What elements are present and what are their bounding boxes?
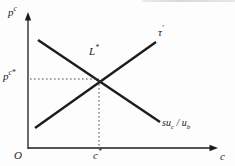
quantity-marker-label: c* bbox=[93, 150, 102, 161]
intersection-label: L* bbox=[89, 46, 99, 57]
downward-curve-slash: / bbox=[174, 117, 182, 128]
intersection-sup: * bbox=[95, 43, 99, 52]
downward-curve-part1: su bbox=[162, 117, 171, 128]
y-axis-label-sup: c bbox=[14, 4, 17, 13]
upward-curve-sup: ′ bbox=[162, 24, 164, 33]
price-marker-label: pc* bbox=[3, 71, 16, 82]
x-axis-label: c bbox=[220, 151, 225, 162]
quantity-marker-sup: * bbox=[98, 147, 102, 156]
origin-label: O bbox=[14, 150, 22, 161]
y-axis-label: pc bbox=[8, 7, 17, 18]
upward-curve-label: τ′ bbox=[158, 27, 164, 38]
supply-demand-diagram: pc pc* O c* c L* τ′ suc / ub bbox=[0, 0, 235, 166]
x-axis-arrowhead-icon bbox=[210, 145, 219, 151]
downward-curve-label: suc / ub bbox=[162, 118, 190, 128]
diagram-plot-area bbox=[0, 0, 235, 166]
downward-curve-sub2: b bbox=[187, 123, 191, 131]
y-axis-arrowhead-icon bbox=[25, 12, 31, 21]
price-marker-sup: c* bbox=[9, 68, 16, 77]
